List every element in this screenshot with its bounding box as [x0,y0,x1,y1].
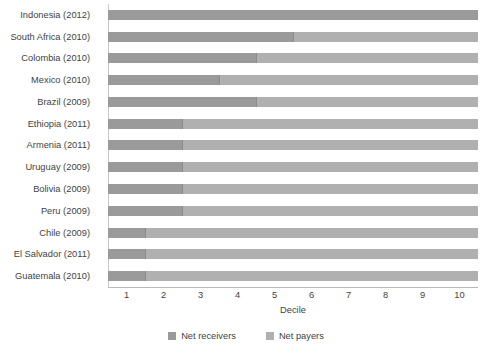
bar-segment-net-payers [182,119,478,129]
stacked-bar [108,53,478,63]
category-label: Guatemala (2010) [15,271,90,281]
category-label: South Africa (2010) [10,32,90,42]
chart-row: Guatemala (2010) [108,265,478,287]
bar-segment-net-payers [182,162,478,172]
plot-area: Indonesia (2012)South Africa (2010)Colom… [108,4,478,287]
bar-segment-net-payers [145,228,478,238]
x-tick-label: 10 [454,290,464,300]
x-tick-label: 8 [383,290,388,300]
x-axis-line [108,287,478,288]
stacked-bar [108,162,478,172]
stacked-bar [108,228,478,238]
bar-segment-net-receivers [108,162,182,172]
category-label: Brazil (2009) [37,97,90,107]
bar-segment-net-payers [256,53,478,63]
category-label: Chile (2009) [39,228,90,238]
stacked-bar [108,10,478,20]
bar-segment-net-receivers [108,140,182,150]
x-tick-label: 9 [420,290,425,300]
category-label: Uruguay (2009) [25,162,90,172]
x-axis-tick-labels: 12345678910 [108,290,478,306]
chart-row: Bolivia (2009) [108,178,478,200]
legend-swatch-icon [168,332,176,340]
chart-row: Peru (2009) [108,200,478,222]
x-tick-label: 5 [272,290,277,300]
stacked-bar [108,140,478,150]
stacked-bar [108,184,478,194]
x-tick-label: 7 [346,290,351,300]
bar-segment-net-payers [293,32,478,42]
bar-segment-net-receivers [108,53,256,63]
chart-row: Armenia (2011) [108,135,478,157]
stacked-bar [108,206,478,216]
chart-row: Ethiopia (2011) [108,113,478,135]
bar-segment-net-payers [182,206,478,216]
category-label: Peru (2009) [41,206,90,216]
category-label: El Salvador (2011) [14,249,90,259]
bar-segment-net-payers [145,249,478,259]
category-label: Bolivia (2009) [33,184,90,194]
x-tick-label: 4 [235,290,240,300]
x-axis-title: Decile [108,305,478,315]
stacked-bar [108,271,478,281]
chart-row: Mexico (2010) [108,69,478,91]
chart-row: Brazil (2009) [108,91,478,113]
stacked-bar [108,119,478,129]
legend-label: Net payers [279,331,324,341]
bar-segment-net-payers [145,271,478,281]
bar-segment-net-payers [256,97,478,107]
bar-segment-net-receivers [108,32,293,42]
bar-segment-net-receivers [108,75,219,85]
legend-item[interactable]: Net payers [266,331,324,341]
stacked-bar [108,75,478,85]
bar-segment-net-receivers [108,10,478,20]
x-tick-label: 6 [309,290,314,300]
x-tick-label: 3 [198,290,203,300]
bar-segment-net-payers [182,184,478,194]
legend-swatch-icon [266,332,274,340]
legend-item[interactable]: Net receivers [168,331,236,341]
bar-segment-net-receivers [108,249,145,259]
bar-segment-net-receivers [108,228,145,238]
category-label: Colombia (2010) [21,53,90,63]
stacked-bar [108,32,478,42]
bar-segment-net-receivers [108,119,182,129]
x-tick-label: 2 [161,290,166,300]
category-label: Ethiopia (2011) [28,119,90,129]
chart-row: Uruguay (2009) [108,156,478,178]
chart-row: Indonesia (2012) [108,4,478,26]
bar-segment-net-receivers [108,184,182,194]
chart-row: Chile (2009) [108,222,478,244]
chart-row: El Salvador (2011) [108,243,478,265]
category-label: Indonesia (2012) [20,10,90,20]
bar-segment-net-payers [182,140,478,150]
stacked-bar [108,97,478,107]
legend-label: Net receivers [181,331,236,341]
stacked-bar [108,249,478,259]
stacked-bar-chart: Indonesia (2012)South Africa (2010)Colom… [0,0,492,354]
bar-segment-net-receivers [108,97,256,107]
chart-legend: Net receiversNet payers [0,331,492,341]
bar-segment-net-receivers [108,206,182,216]
x-tick-label: 1 [124,290,129,300]
category-label: Mexico (2010) [31,75,90,85]
chart-row: Colombia (2010) [108,48,478,70]
bar-segment-net-receivers [108,271,145,281]
category-label: Armenia (2011) [27,140,90,150]
chart-row: South Africa (2010) [108,26,478,48]
bar-segment-net-payers [219,75,478,85]
